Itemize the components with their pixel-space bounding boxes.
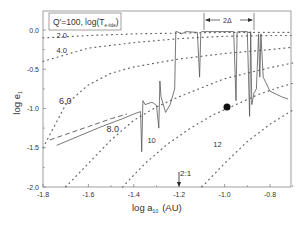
x-axis-label: log a10(AU) <box>132 202 182 214</box>
series-dotted-0 <box>43 32 293 38</box>
series-dotted-2 <box>43 47 293 148</box>
y-tick-label: -1.0 <box>27 105 39 112</box>
contour-label: 2.0 <box>57 31 67 40</box>
legend-text: Q'=100, log(T <box>53 17 104 27</box>
x-tick-label: -1.4 <box>128 191 140 198</box>
contour-labels: 2.04.06.08.01012 <box>57 31 222 148</box>
contour-label: 4.0 <box>57 46 67 55</box>
y-tick-label: -0.5 <box>27 66 39 73</box>
x-tick-label: -1.0 <box>219 191 231 198</box>
chart: -1.8-1.6-1.4-1.2-1.0-0.80.0-0.5-1.0-1.5-… <box>0 0 303 227</box>
contour-label: 8.0 <box>107 124 120 134</box>
series-layer <box>43 32 293 187</box>
x-tick-label: -1.2 <box>173 191 185 198</box>
y-tick-label: -1.5 <box>27 144 39 151</box>
legend-sub: e-tide <box>104 23 116 28</box>
y-tick-label: -2.0 <box>27 184 39 191</box>
contour-label: 6.0 <box>59 96 72 106</box>
x-tick-label: -0.8 <box>264 191 276 198</box>
y-axis-label: log e1 <box>11 91 23 115</box>
resonance-marker: 2:1 <box>177 169 192 187</box>
legend-close: ) <box>116 17 119 27</box>
x-tick-label: -1.6 <box>82 191 94 198</box>
delta-label: 2Δ <box>223 17 232 24</box>
marker-point <box>224 104 231 111</box>
x-tick-label: -1.8 <box>37 191 49 198</box>
contour-label: 10 <box>147 136 155 145</box>
series-solid-7 <box>57 32 289 152</box>
contour-label: 12 <box>213 140 221 149</box>
legend: Q'=100, log(Te-tide) <box>49 13 121 30</box>
series-dotted-1 <box>43 36 293 62</box>
delta-annotation: 2Δ <box>204 13 254 30</box>
plot-frame <box>43 11 291 187</box>
resonance-label: 2:1 <box>180 169 192 178</box>
y-tick-label: 0.0 <box>29 27 39 34</box>
